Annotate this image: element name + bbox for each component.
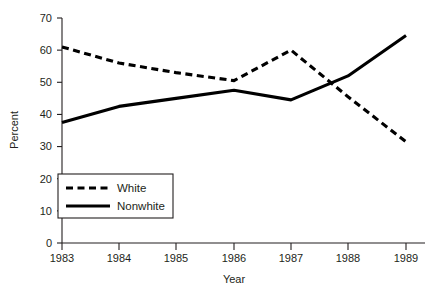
legend-label-nonwhite: Nonwhite — [117, 200, 165, 212]
line-chart: 70 60 50 40 30 20 10 0 1983 1984 1985 19… — [0, 0, 434, 292]
x-tick-label-1985: 1985 — [164, 252, 188, 264]
y-tick-label-40: 40 — [40, 108, 52, 120]
y-tick-label-20: 20 — [40, 173, 52, 185]
y-tick-label-30: 30 — [40, 140, 52, 152]
y-axis-title: Percent — [8, 111, 20, 149]
y-tick-label-10: 10 — [40, 205, 52, 217]
legend-label-white: White — [117, 182, 146, 194]
y-tick-label-70: 70 — [40, 12, 52, 24]
x-tick-label-1986: 1986 — [222, 252, 246, 264]
x-tick-label-1989: 1989 — [394, 252, 418, 264]
x-tick-label-1983: 1983 — [50, 252, 74, 264]
y-tick-label-60: 60 — [40, 44, 52, 56]
x-tick-label-1987: 1987 — [279, 252, 303, 264]
chart-legend: White Nonwhite — [58, 174, 173, 218]
series-line-white — [62, 47, 406, 142]
x-axis-title: Year — [223, 273, 246, 285]
y-tick-label-50: 50 — [40, 76, 52, 88]
x-tick-label-1984: 1984 — [107, 252, 131, 264]
x-tick-marks — [62, 243, 406, 250]
chart-canvas: 70 60 50 40 30 20 10 0 1983 1984 1985 19… — [0, 0, 434, 292]
x-tick-label-1988: 1988 — [336, 252, 360, 264]
y-tick-label-0: 0 — [46, 237, 52, 249]
